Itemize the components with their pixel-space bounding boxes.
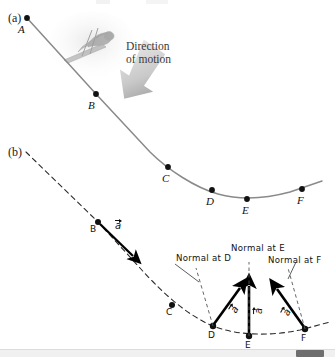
panel-label-b: (b) [8, 145, 22, 160]
panel-a-label-E: E [242, 204, 249, 216]
panel-b-label-F: F [301, 333, 306, 343]
panel-b-label-B: B [90, 224, 96, 234]
normal-line-at-D [196, 268, 213, 326]
panel-a-point-C [165, 164, 171, 170]
direction-of-motion-line2: of motion [126, 53, 171, 66]
panel-a-point-E [244, 196, 250, 202]
direction-of-motion-line1: Direction [126, 40, 169, 53]
vector-a-label-at-E: a [252, 308, 264, 314]
vector-arrow-bar-b [115, 220, 121, 221]
panel-a-label-D: D [206, 195, 214, 207]
normal-line-at-F [288, 268, 305, 329]
normal-at-d-label: Normal at D [176, 253, 231, 263]
panel-a-label-B: B [88, 99, 95, 111]
normal-at-e-label: Normal at E [231, 243, 285, 253]
skier-figure-icon [62, 14, 120, 66]
physics-figure-skier-acceleration: (a) (b) Direction of motion A B C D E F … [0, 0, 335, 360]
vector-arrow-bar-e [253, 308, 254, 314]
panel-a-label-C: C [162, 172, 169, 184]
panel-a-point-B [93, 91, 99, 97]
vector-a-label-at-B: a [115, 219, 121, 231]
panel-a-point-F [299, 186, 305, 192]
top-cutoff-remnant-2 [146, 0, 168, 4]
panel-a-point-A [24, 15, 30, 21]
panel-a-label-A: A [18, 23, 25, 35]
normal-at-f-label: Normal at F [268, 255, 321, 265]
horizontal-scrollbar-track[interactable] [0, 349, 335, 357]
panel-a-label-F: F [297, 194, 304, 206]
top-cutoff-remnant [96, 0, 110, 4]
panel-a-point-D [209, 187, 215, 193]
panel-b-label-D: D [208, 330, 215, 340]
leader-line-normal-at-D [175, 264, 199, 282]
horizontal-scrollbar-thumb[interactable] [296, 350, 324, 357]
panel-b-label-C: C [166, 307, 172, 317]
